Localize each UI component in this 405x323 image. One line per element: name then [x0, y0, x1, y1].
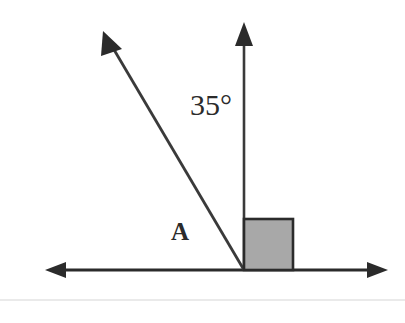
right-angle-square	[244, 219, 293, 270]
up-arrowhead-icon	[235, 22, 253, 46]
angle-measure-label: 35°	[190, 88, 232, 122]
angle-region-label: A	[171, 218, 189, 246]
geometry-drawing	[0, 0, 405, 323]
angle-diagram-canvas: 35° A	[0, 0, 405, 323]
diagonal-arrowhead-icon	[101, 31, 122, 56]
right-arrowhead-icon	[367, 262, 388, 278]
left-arrowhead-icon	[45, 262, 66, 278]
horizontal-double-arrow	[45, 262, 388, 278]
